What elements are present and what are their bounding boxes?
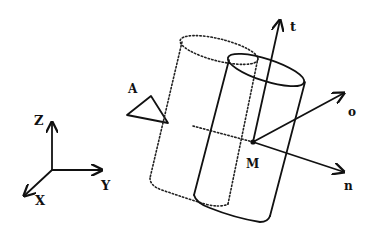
t-axis-arrow [253,20,280,142]
object-a: A [127,82,168,123]
t-axis-label: t [290,19,296,34]
n-axis-arrow [253,142,344,172]
dotted-right-edge [228,58,258,204]
world-frame: Z Y X [24,113,111,208]
x-axis-label: X [35,193,46,208]
point-m-label: M [246,157,259,171]
n-axis-label: n [344,179,353,193]
o-axis-label: o [348,105,356,119]
z-axis-label: Z [34,113,44,128]
dotted-top-ellipse [178,30,261,71]
cylinder-solid [194,47,307,222]
solid-bottom-arc [194,195,270,222]
diagram-canvas: Z Y X A t o n M [0,0,376,233]
object-a-label: A [127,82,138,96]
dotted-bottom-arc [150,178,228,206]
triangle-a-icon [127,96,168,123]
local-frame: t o n M [246,19,356,193]
y-axis-label: Y [100,178,111,193]
dotted-left-edge [150,42,182,178]
o-axis-arrow [253,93,344,142]
cylinder-dotted [150,30,260,206]
